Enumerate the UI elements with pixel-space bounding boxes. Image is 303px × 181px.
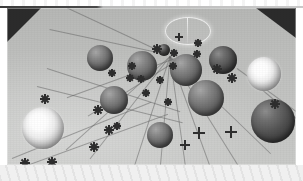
rendered-image-frame xyxy=(7,8,296,165)
scan-grain-overlay xyxy=(7,8,296,165)
bottom-scan-smear xyxy=(0,165,303,181)
screenshot-canvas xyxy=(0,0,303,181)
bottom-scan-strip xyxy=(0,165,303,181)
